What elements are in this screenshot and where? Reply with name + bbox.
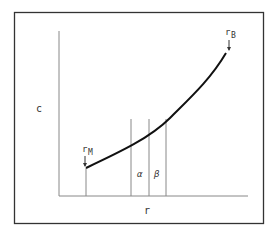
frame-border <box>15 13 264 224</box>
beta-label: β <box>153 169 160 179</box>
rm-arrowhead-icon <box>83 163 87 167</box>
curve <box>86 53 226 168</box>
diagram: c r r M r B α β <box>0 0 279 236</box>
rb-label-sub: B <box>231 31 236 40</box>
y-axis-label: c <box>36 103 42 114</box>
rb-arrowhead-icon <box>227 47 231 51</box>
x-axis-label: r <box>144 205 150 216</box>
alpha-label: α <box>137 169 143 179</box>
rm-label-sub: M <box>88 148 93 157</box>
